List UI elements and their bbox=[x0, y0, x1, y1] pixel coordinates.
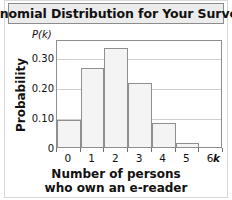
binomial-distribution-figure: Binomial Distribution for Your Survey Pr… bbox=[0, 0, 232, 200]
x-axis-title-line2: who own an e-reader bbox=[8, 181, 224, 195]
bar-4 bbox=[152, 123, 176, 147]
x-tick-label: 3 bbox=[127, 152, 151, 164]
bar-0 bbox=[57, 120, 81, 147]
y-tick-label: 0.30 bbox=[20, 53, 54, 64]
plot-area bbox=[56, 40, 222, 148]
x-tick-label: 0 bbox=[56, 152, 80, 164]
y-tick-label: 0.10 bbox=[20, 113, 54, 124]
bar-5 bbox=[176, 143, 200, 148]
y-axis-unit-label: P(k) bbox=[32, 29, 52, 40]
x-tick-mark bbox=[222, 148, 223, 152]
bar-2 bbox=[104, 48, 128, 147]
x-axis-variable-symbol: k bbox=[213, 152, 220, 164]
plot-inner bbox=[57, 41, 221, 147]
x-tick-label: 1 bbox=[80, 152, 104, 164]
y-unit-k-args: (k) bbox=[38, 29, 52, 40]
bar-1 bbox=[81, 68, 105, 148]
x-axis-title: Number of persons who own an e-reader bbox=[8, 167, 224, 195]
chart-title-bar: Binomial Distribution for Your Survey bbox=[8, 3, 224, 24]
gridline bbox=[57, 59, 221, 60]
x-tick-label: 5 bbox=[174, 152, 198, 164]
chart-title: Binomial Distribution for Your Survey bbox=[0, 6, 232, 21]
bar-3 bbox=[128, 83, 152, 148]
y-axis-tick-labels: 00.100.200.30 bbox=[16, 40, 54, 148]
x-tick-label: 2 bbox=[103, 152, 127, 164]
y-tick-label: 0.20 bbox=[20, 83, 54, 94]
x-tick-label: 4 bbox=[151, 152, 175, 164]
y-tick-label: 0 bbox=[20, 143, 54, 154]
x-axis-title-line1: Number of persons bbox=[8, 167, 224, 181]
